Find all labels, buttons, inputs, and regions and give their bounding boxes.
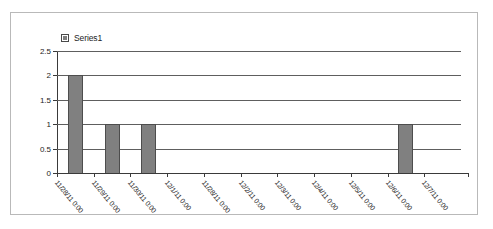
y-tick-label: 2 xyxy=(47,71,51,80)
y-tick-label: 2.5 xyxy=(40,47,51,56)
x-tick-label-8: 12/5/11 0:00 xyxy=(347,179,376,212)
y-tick-label: 1 xyxy=(47,120,51,129)
x-tick-label-5: 12/2/11 0:00 xyxy=(237,179,266,212)
gridline-y-2 xyxy=(57,75,461,76)
gridline-y-2.5 xyxy=(57,51,461,52)
x-tick-mark-3 xyxy=(167,173,168,177)
x-tick-mark-10 xyxy=(424,173,425,177)
x-tick-mark-8 xyxy=(351,173,352,177)
x-tick-mark-5 xyxy=(241,173,242,177)
y-tick-mark xyxy=(53,75,57,76)
x-tick-mark-end xyxy=(468,173,469,177)
x-tick-label-0: 11/28/11 0:00 xyxy=(54,179,85,214)
chart-screenshot: Series1 2.521.510.50 11/28/11 0:0011/29/… xyxy=(0,0,493,229)
x-tick-label-6: 12/3/11 0:00 xyxy=(274,179,303,212)
y-tick-mark xyxy=(53,51,57,52)
x-tick-mark-6 xyxy=(277,173,278,177)
chart-legend: Series1 xyxy=(61,31,102,45)
bar-series1-0 xyxy=(68,75,83,173)
x-axis-line xyxy=(57,173,468,174)
chart-frame: Series1 2.521.510.50 11/28/11 0:0011/29/… xyxy=(10,12,478,215)
bar-series1-9 xyxy=(398,124,413,173)
x-tick-label-1: 11/29/11 0:00 xyxy=(90,179,121,214)
x-tick-mark-0 xyxy=(57,173,58,177)
x-tick-mark-9 xyxy=(388,173,389,177)
x-tick-label-9: 12/6/11 0:00 xyxy=(384,179,413,212)
legend-series1-swatch xyxy=(61,34,69,42)
x-tick-label-2: 11/30/11 0:00 xyxy=(127,179,158,214)
y-tick-label: 0 xyxy=(47,169,51,178)
x-tick-mark-2 xyxy=(130,173,131,177)
y-tick-mark xyxy=(53,149,57,150)
y-tick-label: 0.5 xyxy=(40,144,51,153)
x-tick-label-10: 12/7/11 0:00 xyxy=(421,179,450,212)
bar-series1-2 xyxy=(141,124,156,173)
legend-series1-label: Series1 xyxy=(74,33,102,43)
y-tick-mark xyxy=(53,124,57,125)
x-tick-mark-7 xyxy=(314,173,315,177)
y-tick-label: 1.5 xyxy=(40,95,51,104)
x-tick-label-4: 11/28/11 0:00 xyxy=(201,179,232,214)
bar-series1-1 xyxy=(105,124,120,173)
gridline-y-1.5 xyxy=(57,100,461,101)
x-tick-label-3: 12/1/11 0:00 xyxy=(164,179,193,212)
x-tick-label-7: 12/4/11 0:00 xyxy=(311,179,340,212)
x-tick-mark-4 xyxy=(204,173,205,177)
x-tick-mark-1 xyxy=(94,173,95,177)
plot-area: 2.521.510.50 xyxy=(57,51,461,173)
y-tick-mark xyxy=(53,100,57,101)
